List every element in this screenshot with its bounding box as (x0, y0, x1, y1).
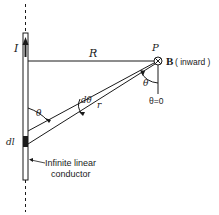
label-theta-bottom: θ (36, 108, 42, 118)
dtheta-arrow-icon (79, 112, 85, 116)
field-inward-icon (154, 57, 162, 65)
label-theta-top: θ (143, 78, 149, 88)
label-R: R (88, 47, 97, 60)
label-dtheta: dθ (81, 95, 92, 105)
label-r: r (97, 100, 102, 110)
conductor-label-leader (31, 160, 45, 163)
current-element-dl (23, 136, 28, 147)
label-current-I: I (13, 42, 19, 55)
label-P: P (151, 42, 159, 53)
label-conductor-line1: Infinite linear (45, 158, 96, 168)
label-conductor-line2: conductor (51, 169, 91, 179)
label-theta-zero: θ=0 (149, 96, 164, 106)
label-B: B (166, 55, 174, 67)
label-B-direction: ( inward ) (175, 57, 211, 67)
conductor-leader-arrow-icon (29, 158, 33, 162)
label-dl: dl (6, 137, 15, 147)
biot-savart-diagram: I R P B ( inward ) dθ r θ θ θ=0 dl Infin… (0, 0, 219, 215)
